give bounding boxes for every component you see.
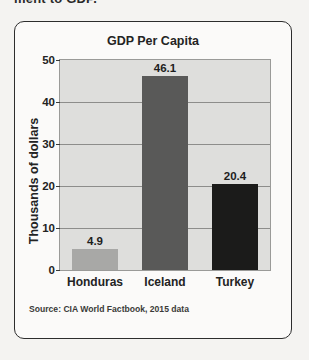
chart-title: GDP Per Capita (15, 34, 291, 48)
bar-honduras[interactable] (72, 249, 118, 270)
clipped-header-text: ment to GDP. (14, 0, 97, 9)
bar-group[interactable]: 4.9Honduras (72, 60, 118, 270)
bar-value-label: 20.4 (212, 170, 258, 182)
figure-card: GDP Per Capita Thousands of dollars 0102… (14, 21, 292, 339)
bar-series: 4.9Honduras46.1Iceland20.4Turkey (60, 60, 270, 270)
source-note: Source: CIA World Factbook, 2015 data (29, 304, 189, 314)
y-axis-tick-label: 30 (42, 138, 55, 150)
y-axis-tick-label: 20 (42, 180, 55, 192)
y-axis-title: Thousands of dollars (27, 101, 41, 261)
x-axis-category-label: Iceland (128, 275, 202, 289)
bar-iceland[interactable] (142, 76, 188, 270)
x-axis-category-label: Turkey (198, 275, 272, 289)
y-axis-tick-mark (56, 270, 60, 271)
x-axis-category-label: Honduras (58, 275, 132, 289)
bar-group[interactable]: 46.1Iceland (142, 60, 188, 270)
plot-area: 01020304050 4.9Honduras46.1Iceland20.4Tu… (59, 59, 271, 271)
bar-group[interactable]: 20.4Turkey (212, 60, 258, 270)
y-axis-tick-label: 40 (42, 96, 55, 108)
y-axis-tick-label: 0 (49, 264, 55, 276)
bar-value-label: 46.1 (142, 62, 188, 74)
y-axis-tick-label: 50 (42, 54, 55, 66)
bar-value-label: 4.9 (72, 235, 118, 247)
y-axis-tick-label: 10 (42, 222, 55, 234)
bar-turkey[interactable] (212, 184, 258, 270)
